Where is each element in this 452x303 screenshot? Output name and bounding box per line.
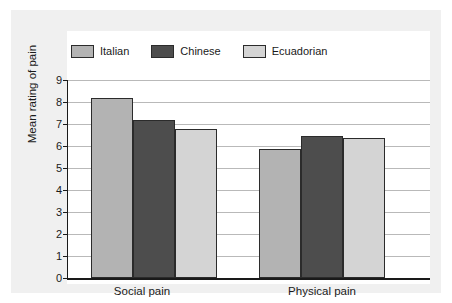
chart-screenshot: Italian Chinese Ecuadorian Mean rating o…: [0, 0, 452, 303]
bar-social-chinese: [133, 120, 175, 278]
y-tick-label: 5: [48, 163, 62, 174]
legend-item-chinese: Chinese: [151, 45, 220, 58]
x-axis-line: [67, 278, 430, 280]
bar-social-ecuadorian: [175, 129, 217, 278]
bar-physical-italian: [259, 149, 301, 278]
chart-legend: Italian Chinese Ecuadorian: [71, 41, 349, 61]
x-category-label-physical-pain: Physical pain: [274, 284, 370, 298]
bar-physical-ecuadorian: [343, 138, 385, 278]
bar-physical-chinese: [301, 136, 343, 278]
gridline: [67, 80, 430, 81]
y-tick-label: 3: [48, 207, 62, 218]
y-tick-label: 6: [48, 141, 62, 152]
y-tick-label: 2: [48, 229, 62, 240]
legend-item-italian: Italian: [71, 45, 129, 58]
y-tick-label: 7: [48, 119, 62, 130]
y-tick-label: 9: [48, 75, 62, 86]
legend-label-ecuadorian: Ecuadorian: [272, 45, 328, 58]
legend-swatch-ecuadorian: [243, 45, 266, 58]
y-tick-label: 4: [48, 185, 62, 196]
legend-item-ecuadorian: Ecuadorian: [243, 45, 328, 58]
y-tick-label: 0: [48, 273, 62, 284]
legend-label-chinese: Chinese: [180, 45, 220, 58]
bar-social-italian: [91, 98, 133, 278]
legend-label-italian: Italian: [100, 45, 129, 58]
legend-swatch-italian: [71, 45, 94, 58]
x-axis-category-labels: Social pain Physical pain: [67, 284, 430, 300]
x-category-label-social-pain: Social pain: [94, 284, 190, 298]
y-axis-line: [67, 80, 68, 279]
legend-swatch-chinese: [151, 45, 174, 58]
y-tick-label: 1: [48, 251, 62, 262]
figure-panel: Italian Chinese Ecuadorian Mean rating o…: [11, 10, 441, 293]
y-axis-title: Mean rating of pain: [26, 29, 38, 159]
plot-area: [67, 80, 430, 279]
y-axis-tick-labels: 9 8 7 6 5 4 3 2 1 0: [44, 80, 62, 279]
y-tick-label: 8: [48, 97, 62, 108]
